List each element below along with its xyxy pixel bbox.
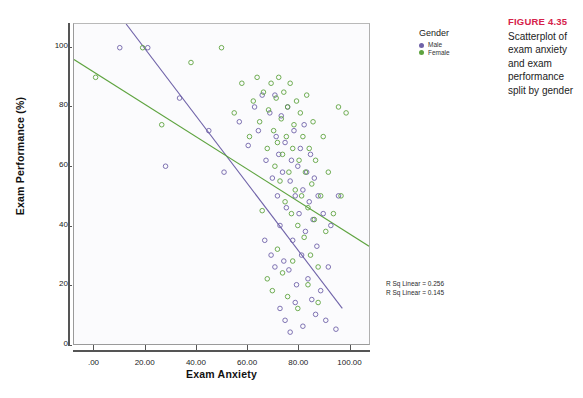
x-tick-label: 100.00	[325, 359, 375, 367]
data-point-female	[306, 282, 311, 287]
data-point-male	[321, 211, 326, 216]
data-point-female	[285, 105, 290, 110]
x-tick: 20.00	[145, 352, 146, 353]
data-point-male	[303, 229, 308, 234]
data-point-male	[301, 324, 306, 329]
y-tick: 60	[30, 166, 68, 167]
data-point-female	[283, 199, 288, 204]
data-point-female	[336, 105, 341, 110]
data-point-male	[288, 179, 293, 184]
data-point-female	[301, 134, 306, 139]
x-tick: 80.00	[298, 352, 299, 353]
legend-swatch-male	[419, 43, 424, 48]
data-point-female	[293, 188, 298, 193]
y-axis-title: Exam Performance (%)	[14, 31, 26, 281]
data-point-male	[296, 164, 301, 169]
data-point-female	[270, 288, 275, 293]
data-point-female	[275, 247, 280, 252]
data-point-female	[285, 294, 290, 299]
data-point-female	[247, 134, 252, 139]
fit-line-male	[126, 24, 342, 308]
data-point-female	[311, 119, 316, 124]
plot-svg	[74, 24, 369, 344]
x-axis-spine	[73, 350, 370, 352]
y-tick-label: 40	[34, 221, 68, 229]
data-point-female	[296, 306, 301, 311]
data-point-male	[275, 194, 280, 199]
data-point-male	[293, 300, 298, 305]
data-point-female	[275, 140, 280, 145]
data-point-female	[316, 300, 321, 305]
x-tick-label: .00	[68, 359, 118, 367]
data-point-male	[256, 128, 261, 133]
figure-caption-title: FIGURE 4.35	[508, 16, 580, 29]
data-point-female	[269, 81, 274, 86]
fit-line-female	[74, 60, 369, 247]
y-tick: 40	[30, 226, 68, 227]
data-point-female	[279, 117, 284, 122]
data-point-male	[278, 306, 283, 311]
data-point-female	[257, 119, 262, 124]
data-point-female	[290, 146, 295, 151]
data-point-male	[237, 119, 242, 124]
data-point-male	[334, 327, 339, 332]
data-point-female	[278, 179, 283, 184]
data-point-male	[293, 194, 298, 199]
data-point-male	[306, 277, 311, 282]
data-point-male	[313, 312, 318, 317]
data-point-female	[321, 134, 326, 139]
data-point-female	[284, 134, 289, 139]
data-point-male	[284, 205, 289, 210]
data-point-male	[145, 45, 150, 50]
data-point-male	[287, 268, 292, 273]
data-point-female	[296, 223, 301, 228]
data-point-male	[309, 297, 314, 302]
x-tick-label: 20.00	[120, 359, 170, 367]
data-point-female	[93, 75, 98, 80]
data-point-male	[323, 318, 328, 323]
data-point-female	[219, 45, 224, 50]
data-point-male	[302, 122, 307, 127]
y-tick-label: 80	[34, 101, 68, 109]
data-point-female	[309, 182, 314, 187]
data-point-female	[294, 99, 299, 104]
y-axis-spine	[68, 23, 70, 345]
data-point-female	[331, 211, 336, 216]
data-point-male	[315, 244, 320, 249]
data-point-male	[283, 140, 288, 145]
y-tick-label: 100	[34, 42, 68, 50]
data-point-female	[290, 259, 295, 264]
data-point-male	[222, 170, 227, 175]
data-point-female	[265, 146, 270, 151]
data-point-male	[252, 105, 257, 110]
data-point-female	[323, 229, 328, 234]
data-point-male	[307, 199, 312, 204]
figure-caption: FIGURE 4.35 Scatterplot of exam anxiety …	[508, 16, 580, 97]
data-point-female	[304, 93, 309, 98]
data-point-female	[289, 211, 294, 216]
y-tick-label: 20	[34, 280, 68, 288]
figure-scatterplot: 020406080100 .0020.0040.0060.0080.00100.…	[0, 0, 583, 398]
legend-item-male: Male	[419, 42, 499, 49]
data-point-male	[294, 282, 299, 287]
data-point-female	[287, 170, 292, 175]
data-point-female	[316, 265, 321, 270]
data-point-female	[240, 81, 245, 86]
data-point-female	[232, 111, 237, 116]
x-axis-title: Exam Anxiety	[73, 368, 370, 380]
data-point-female	[280, 271, 285, 276]
y-tick: 100	[30, 47, 68, 48]
x-tick: 40.00	[196, 352, 197, 353]
data-point-female	[299, 194, 304, 199]
data-point-male	[308, 152, 313, 157]
data-point-female	[282, 90, 287, 95]
y-tick-label: 60	[34, 161, 68, 169]
legend-title: Gender	[419, 28, 499, 38]
data-point-female	[298, 111, 303, 116]
legend: Gender Male Female	[419, 28, 499, 57]
data-point-male	[117, 45, 122, 50]
y-tick-mark	[68, 345, 72, 346]
x-tick: 60.00	[247, 352, 248, 353]
legend-label-male: Male	[428, 42, 442, 49]
data-point-male	[163, 164, 168, 169]
